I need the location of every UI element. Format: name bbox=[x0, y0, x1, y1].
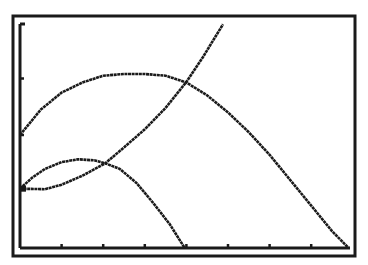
graph-plot bbox=[0, 0, 368, 265]
calculator-graph-screen bbox=[0, 0, 368, 265]
screen-background bbox=[0, 0, 368, 265]
start-point-marker bbox=[19, 186, 26, 192]
